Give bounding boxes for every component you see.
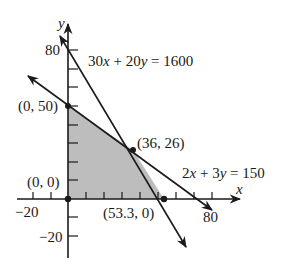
equation-label-30x-20y-1600: 30x + 20y = 1600 [88, 53, 193, 69]
vertex-dot-53-0 [161, 196, 167, 202]
y-tick-label-80: 80 [45, 42, 60, 58]
vertex-dot-36-26 [130, 147, 136, 153]
vertex-label-36-26: (36, 26) [137, 135, 185, 152]
vertex-label-0-50: (0, 50) [18, 98, 58, 115]
vertex-label-0-0: (0, 0) [27, 174, 60, 191]
vertex-dot-0-50 [65, 103, 71, 109]
y-tick-label-neg20: −20 [39, 229, 62, 245]
x-axis-label: x [235, 181, 243, 197]
vertex-dot-0-0 [65, 196, 71, 202]
y-axis-label: y [56, 15, 65, 31]
equation-label-2x-3y-150: 2x + 3y = 150 [182, 165, 265, 181]
vertex-label-53-0: (53.3, 0) [103, 205, 154, 222]
x-tick-label-80: 80 [203, 209, 218, 225]
y-axis-ticks [68, 50, 78, 236]
x-axis-ticks [33, 192, 212, 199]
feasible-region-graph: y x 80 −20 −20 80 (0, 50) (0, 0) (36, 26… [0, 0, 284, 266]
x-tick-label-neg20: −20 [15, 204, 38, 220]
